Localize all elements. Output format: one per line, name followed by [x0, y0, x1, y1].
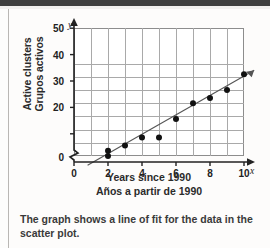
- x-axis-arrow: [247, 158, 255, 166]
- y-tick-label: 20: [42, 102, 64, 113]
- x-axis-title-es: Años a partir de 1990: [49, 184, 249, 198]
- y-tick-label: 30: [42, 76, 64, 87]
- scatter-plot-figure: Active clusters Grupos activos: [9, 10, 270, 205]
- y-tick-label: 50: [42, 23, 64, 34]
- figure-caption: The graph shows a line of fit for the da…: [20, 212, 255, 240]
- page-container: Active clusters Grupos activos: [0, 0, 270, 248]
- x-axis-title: Years since 1990 Años a partir de 1990: [49, 170, 249, 198]
- y-axis: [70, 24, 78, 162]
- y-tick-label: 0: [42, 152, 64, 163]
- y-tick-label: 40: [42, 50, 64, 61]
- y-axis-variable: y: [68, 20, 72, 30]
- x-axis-variable: x: [250, 166, 254, 176]
- x-axis-title-en: Years since 1990: [49, 170, 249, 184]
